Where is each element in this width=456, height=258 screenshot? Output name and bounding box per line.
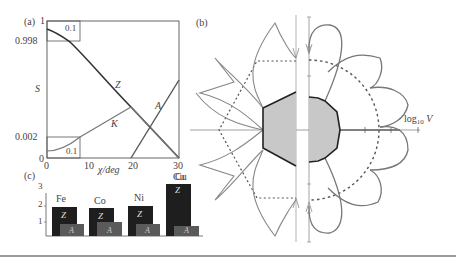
category-cu: Cu	[175, 172, 187, 182]
bar-label-z: Z	[61, 211, 66, 220]
c-ytick-2: 2	[38, 200, 43, 209]
bar-label-a: A	[107, 227, 112, 235]
ytick-0998: 0.998	[15, 36, 38, 46]
category-fe: Fe	[56, 194, 66, 204]
ytick-1: 1	[40, 16, 45, 26]
figure-svg	[0, 0, 456, 258]
ylabel-s: S	[35, 84, 40, 94]
ytick-0002: 0.002	[15, 132, 38, 142]
c-ytick-3: 3	[38, 182, 43, 191]
b-axis-label: log10 V	[404, 114, 432, 126]
xtick-30: 30	[173, 161, 183, 171]
bar-label-a: A	[69, 227, 74, 235]
category-co: Co	[94, 196, 106, 206]
panel-c-label: (c)	[24, 171, 35, 181]
panel-b	[190, 15, 420, 242]
bottom-rule	[0, 255, 456, 257]
xtick-20: 20	[128, 161, 138, 171]
panel-a-label: (a)	[24, 17, 35, 27]
curve-z	[47, 29, 179, 158]
curve-label-k: K	[111, 119, 118, 129]
panel-a	[47, 21, 179, 158]
bar-label-z: Z	[98, 212, 103, 221]
xlabel: χ/deg	[98, 165, 120, 175]
bar-label-z: Z	[137, 210, 142, 219]
bar-label-a: A	[184, 227, 189, 235]
figure: (a) 1 0.998 S 0.002 0 0.1 0.1 Z K A 0 10…	[0, 0, 456, 258]
curve-a	[131, 80, 179, 158]
category-ni: Ni	[134, 193, 144, 203]
curve-z-tail	[131, 107, 179, 158]
xtick-10: 10	[84, 161, 94, 171]
bar-label-a: A	[145, 227, 150, 235]
inset-top-label: 0.1	[65, 24, 76, 33]
curve-label-a: A	[155, 101, 161, 111]
right-shaded-region	[309, 97, 340, 162]
curve-label-z: Z	[115, 80, 121, 90]
c-ytick-1: 1	[38, 217, 43, 226]
inset-bottom-label: 0.1	[66, 147, 77, 156]
panel-b-label: (b)	[196, 18, 208, 28]
curve-k	[47, 107, 131, 151]
bar-label-z: Z	[175, 186, 180, 195]
xtick-0: 0	[44, 161, 49, 171]
left-shaded-region	[263, 92, 296, 166]
